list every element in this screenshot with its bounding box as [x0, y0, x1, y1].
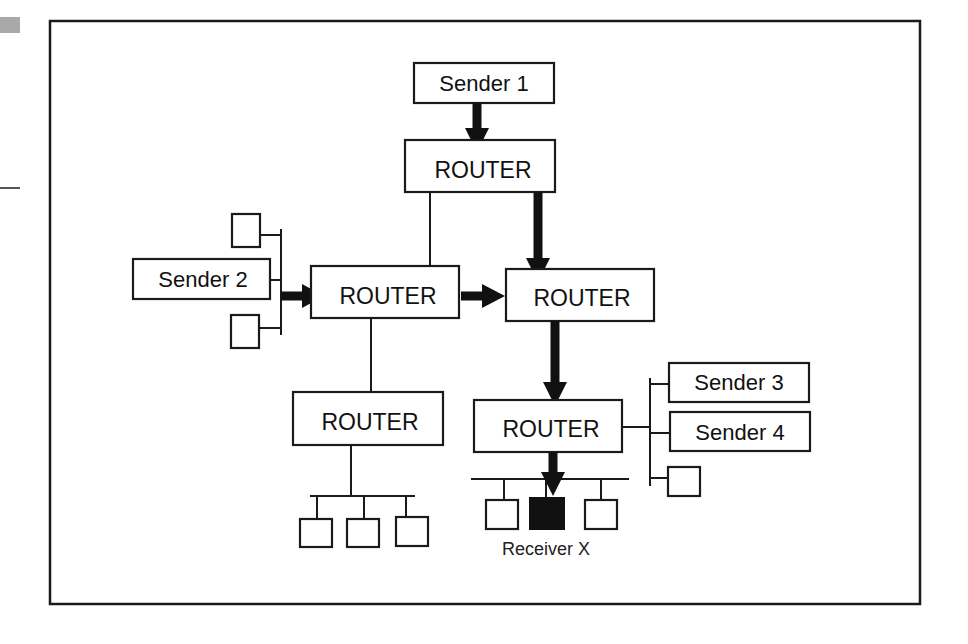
host-box — [486, 500, 518, 529]
host-box — [232, 214, 260, 247]
sender-3-label: Sender 3 — [694, 370, 783, 395]
host-box — [347, 519, 379, 547]
sender-1-node: Sender 1 — [414, 63, 554, 103]
router-top-label: ROUTER — [434, 157, 531, 183]
multicast-network-diagram: Sender 1 ROUTER Sender 2 ROUTER — [0, 0, 968, 644]
sender-3-node: Sender 3 — [669, 363, 809, 402]
router-center-node: ROUTER — [506, 269, 654, 321]
arrow-router-center-to-router-bottom-right — [543, 321, 567, 406]
sender-4-node: Sender 4 — [670, 412, 810, 451]
router-left-node: ROUTER — [311, 266, 459, 318]
receiver-x-label: Receiver X — [502, 539, 590, 559]
arrow-router-left-to-router-center — [461, 284, 505, 308]
router-center-label: ROUTER — [533, 285, 630, 311]
host-box — [300, 519, 332, 547]
router-bottom-left-node: ROUTER — [293, 392, 443, 445]
sender-1-label: Sender 1 — [439, 71, 528, 96]
host-box — [396, 517, 428, 546]
host-box — [585, 500, 617, 529]
host-box — [668, 467, 700, 496]
router-bottom-right-node: ROUTER — [474, 400, 622, 452]
router-bottom-left-label: ROUTER — [321, 409, 418, 435]
bottom-left-lan — [300, 445, 428, 547]
arrow-router-to-receiver — [541, 452, 565, 496]
router-top-node: ROUTER — [405, 140, 555, 192]
sender-4-label: Sender 4 — [695, 420, 784, 445]
router-left-label: ROUTER — [339, 283, 436, 309]
sender-2-node: Sender 2 — [133, 259, 270, 299]
receiver-x-box — [530, 498, 564, 529]
router-bottom-right-label: ROUTER — [502, 416, 599, 442]
host-box — [231, 315, 259, 348]
sender-2-label: Sender 2 — [158, 267, 247, 292]
